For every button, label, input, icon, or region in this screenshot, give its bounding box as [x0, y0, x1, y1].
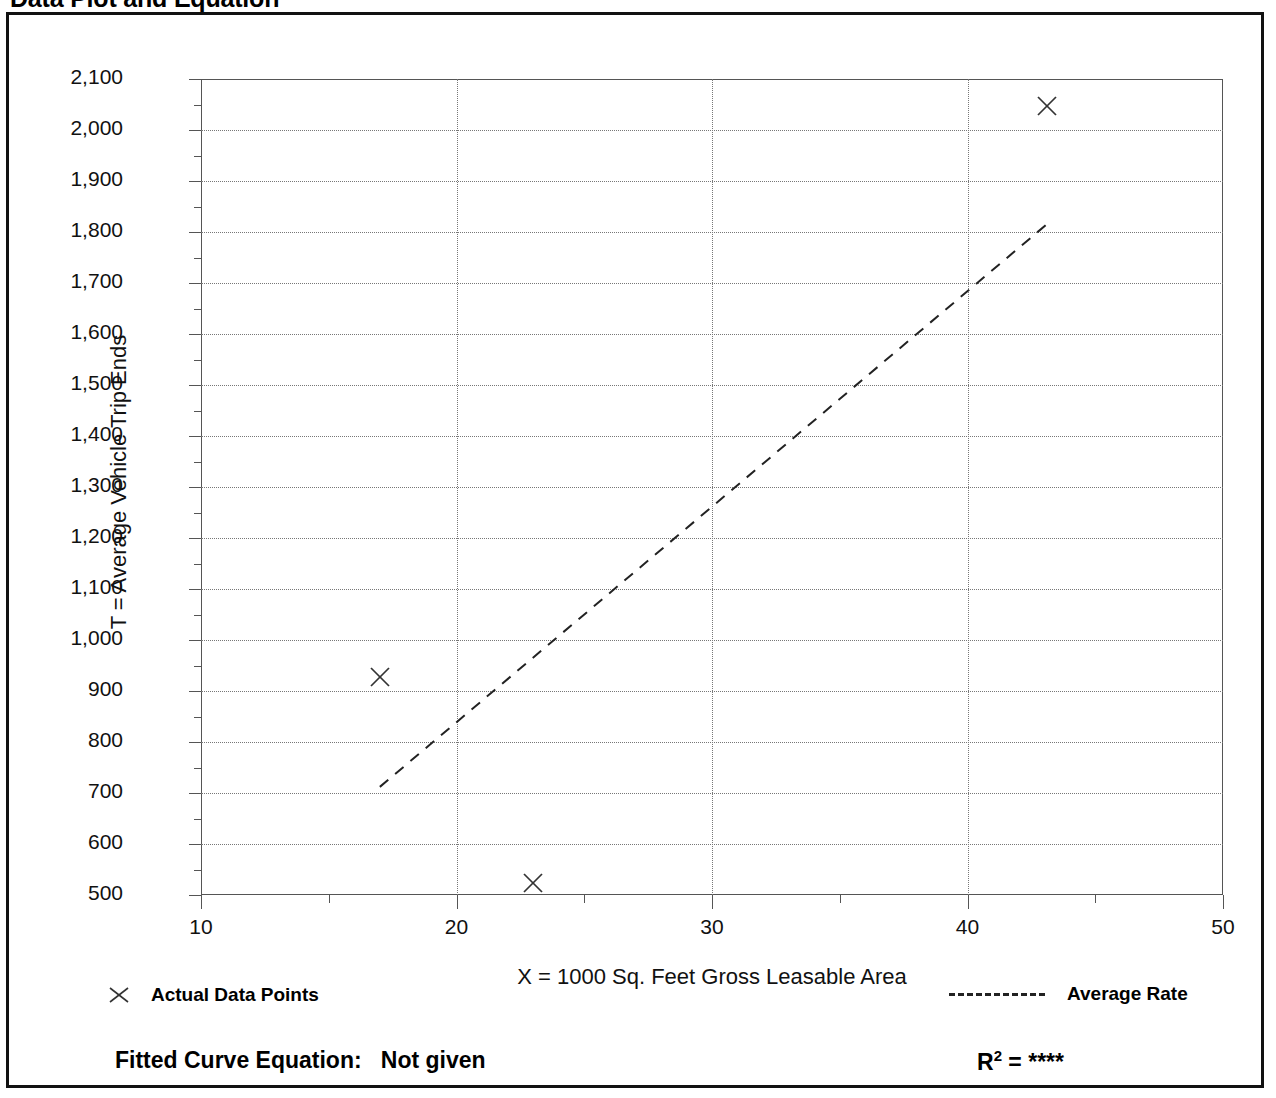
y-axis-tick [189, 538, 201, 539]
equation-row: Fitted Curve Equation: Not given R2 = **… [9, 1047, 1261, 1097]
r-squared-exponent: 2 [994, 1047, 1002, 1064]
y-axis-minor-tick [194, 768, 201, 769]
x-axis-tick [712, 895, 713, 909]
x-axis-minor-tick [584, 895, 585, 903]
y-axis-minor-tick [194, 870, 201, 871]
y-axis-minor-tick [194, 462, 201, 463]
x-axis-tick [201, 895, 202, 909]
x-axis-tick [1223, 895, 1224, 909]
y-axis-tick [189, 436, 201, 437]
y-axis-minor-tick [194, 309, 201, 310]
r-squared-label: R [977, 1049, 994, 1075]
gridline-vertical [457, 79, 458, 895]
legend-entry-actual-data-points: Actual Data Points [107, 983, 319, 1007]
chart-legend: Actual Data Points Average Rate [9, 983, 1261, 1029]
y-axis-minor-tick [194, 360, 201, 361]
legend-label-actual-data-points: Actual Data Points [151, 984, 319, 1006]
y-axis-minor-tick [194, 156, 201, 157]
x-axis-minor-tick [1095, 895, 1096, 903]
x-marker-icon [107, 983, 131, 1007]
y-axis-tick [189, 79, 201, 80]
y-axis-minor-tick [194, 666, 201, 667]
y-axis-tick [189, 793, 201, 794]
y-axis-minor-tick [194, 717, 201, 718]
y-axis-tick [189, 691, 201, 692]
gridline-vertical [712, 79, 713, 895]
y-axis-minor-tick [194, 513, 201, 514]
y-axis-minor-tick [194, 258, 201, 259]
fitted-curve-value: Not given [381, 1047, 486, 1073]
y-axis-tick [189, 385, 201, 386]
y-axis-tick [189, 283, 201, 284]
y-axis-minor-tick [194, 564, 201, 565]
data-point-marker [522, 872, 544, 894]
y-axis-tick [189, 895, 201, 896]
gridline-vertical [968, 79, 969, 895]
y-axis-tick [189, 232, 201, 233]
x-axis-tick-label: 10 [166, 915, 236, 939]
y-axis-minor-tick [194, 105, 201, 106]
plot-area: 5006007008009001,0001,1001,2001,3001,400… [201, 79, 1223, 895]
y-axis-tick [189, 589, 201, 590]
x-axis-tick [968, 895, 969, 909]
y-axis-tick [189, 181, 201, 182]
r-squared-equals: = [1002, 1049, 1028, 1075]
dashed-line-icon [949, 993, 1045, 996]
x-axis-tick [457, 895, 458, 909]
y-axis-tick [189, 844, 201, 845]
y-axis-tick [189, 742, 201, 743]
x-axis-tick-label: 30 [677, 915, 747, 939]
data-point-marker [1036, 95, 1058, 117]
y-axis-minor-tick [194, 819, 201, 820]
y-axis-tick [189, 130, 201, 131]
r-squared-annotation: R2 = **** [977, 1047, 1064, 1076]
y-axis-minor-tick [194, 615, 201, 616]
r-squared-value: **** [1028, 1049, 1064, 1075]
x-axis-minor-tick [329, 895, 330, 903]
y-axis-tick [189, 334, 201, 335]
y-axis-tick [189, 640, 201, 641]
y-axis-title: T = Average Vehicle Trip Ends [106, 72, 132, 892]
figure-frame: 5006007008009001,0001,1001,2001,3001,400… [6, 12, 1264, 1088]
y-axis-minor-tick [194, 207, 201, 208]
x-axis-tick-label: 50 [1188, 915, 1258, 939]
fitted-curve-equation: Fitted Curve Equation: Not given [115, 1047, 486, 1074]
fitted-curve-label: Fitted Curve Equation: [115, 1047, 362, 1073]
x-axis-minor-tick [840, 895, 841, 903]
y-axis-tick [189, 487, 201, 488]
legend-entry-average-rate: Average Rate [949, 983, 1188, 1005]
legend-label-average-rate: Average Rate [1067, 983, 1188, 1005]
y-axis-minor-tick [194, 411, 201, 412]
data-point-marker [369, 666, 391, 688]
x-axis-tick-label: 20 [422, 915, 492, 939]
x-axis-tick-label: 40 [933, 915, 1003, 939]
